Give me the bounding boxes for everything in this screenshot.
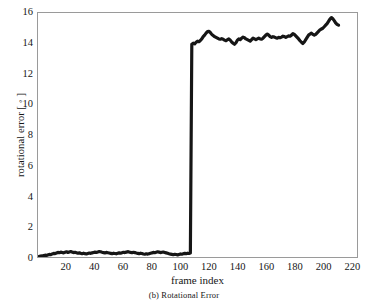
x-tick-label: 80 xyxy=(146,260,157,273)
x-tick-label: 200 xyxy=(316,260,332,273)
y-tick-label: 12 xyxy=(14,69,33,79)
x-tick-label: 100 xyxy=(172,260,188,273)
rotational-error-line xyxy=(39,18,338,257)
x-tick-label: 40 xyxy=(89,260,100,273)
x-tick-label: 220 xyxy=(344,260,360,273)
y-tick-label: 14 xyxy=(14,38,33,48)
y-tick-label: 4 xyxy=(14,192,33,202)
y-tick-label: 6 xyxy=(14,161,33,171)
y-axis-tick-labels: 0246810121416 xyxy=(14,0,33,306)
x-axis-label: frame index xyxy=(37,273,358,287)
x-tick-label: 120 xyxy=(201,260,217,273)
x-tick-label: 20 xyxy=(60,260,71,273)
plot-area xyxy=(37,12,358,258)
x-tick-label: 60 xyxy=(118,260,129,273)
y-tick-label: 2 xyxy=(14,222,33,232)
rotational-error-figure: rotational error [ ◦ ] 0246810121416 204… xyxy=(0,0,368,306)
x-axis-tick-labels: 20406080100120140160180200220 xyxy=(37,260,358,274)
y-tick-label: 8 xyxy=(14,130,33,140)
y-tick-label: 10 xyxy=(14,99,33,109)
y-tick-label: 0 xyxy=(14,253,33,263)
figure-caption: (b) Rotational Error xyxy=(0,289,368,301)
x-tick-label: 160 xyxy=(258,260,274,273)
x-tick-label: 140 xyxy=(230,260,246,273)
data-series-rotational-error xyxy=(38,13,357,257)
y-tick-label: 16 xyxy=(14,7,33,17)
x-tick-label: 180 xyxy=(287,260,303,273)
